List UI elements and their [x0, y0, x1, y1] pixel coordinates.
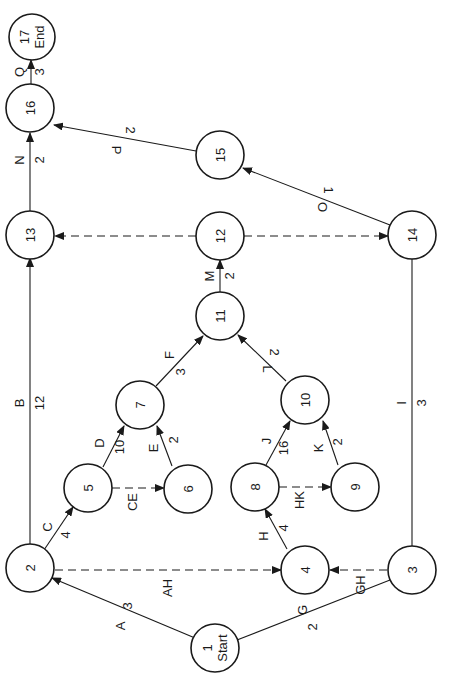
- label-G: G: [295, 605, 310, 615]
- label-H-duration: 4: [276, 524, 291, 531]
- node-14-label: 14: [405, 228, 420, 242]
- label-J: J: [259, 438, 274, 445]
- node-17-end: 17 End: [9, 14, 55, 60]
- node-12-label: 12: [213, 229, 228, 243]
- network-diagram: 1 Start 2 3 4 5 6 7 8 9 10 11 12 13 14 1…: [0, 0, 451, 684]
- node-16: 16: [6, 84, 54, 132]
- node-13-label: 13: [23, 228, 38, 242]
- node-17-label: 17: [17, 30, 32, 44]
- label-A-duration: 3: [120, 602, 135, 609]
- node-11: 11: [196, 292, 244, 340]
- label-M: M: [202, 271, 217, 282]
- node-15-label: 15: [213, 148, 228, 162]
- label-M-duration: 2: [222, 272, 237, 279]
- label-N: N: [12, 155, 27, 164]
- label-E: E: [146, 443, 161, 452]
- label-K-duration: 2: [330, 438, 345, 445]
- node-6: 6: [164, 465, 212, 513]
- label-AH: AH: [160, 579, 175, 597]
- node-4: 4: [281, 546, 329, 594]
- label-O: O: [315, 202, 330, 212]
- node-8-label: 8: [248, 483, 263, 490]
- label-F: F: [162, 351, 177, 359]
- label-D: D: [92, 438, 107, 447]
- label-P-duration: 2: [123, 126, 138, 133]
- node-5-label: 5: [81, 484, 96, 491]
- label-CE: CE: [125, 493, 140, 511]
- label-E-duration: 2: [166, 436, 181, 443]
- node-6-label: 6: [181, 485, 196, 492]
- label-A: A: [113, 621, 128, 630]
- label-C: C: [40, 522, 55, 531]
- label-B-duration: 12: [32, 396, 47, 410]
- node-1-start: 1 Start: [191, 624, 239, 672]
- node-3: 3: [388, 546, 436, 594]
- node-10: 10: [281, 376, 329, 424]
- node-3-label: 3: [405, 566, 420, 573]
- edge-O: [243, 168, 390, 225]
- edge-F: [156, 336, 203, 386]
- label-I-duration: 3: [414, 399, 429, 406]
- node-9: 9: [331, 463, 379, 511]
- label-Q-duration: 3: [32, 68, 47, 75]
- edge-L: [238, 335, 286, 381]
- node-10-label: 10: [298, 393, 313, 407]
- node-12: 12: [196, 212, 244, 260]
- node-11-label: 11: [213, 309, 228, 323]
- node-14: 14: [388, 211, 436, 259]
- node-17-sublabel: End: [32, 25, 47, 48]
- label-Q: Q: [12, 67, 27, 77]
- node-7-label: 7: [133, 401, 148, 408]
- label-G-duration: 2: [305, 623, 320, 630]
- label-K: K: [311, 443, 326, 452]
- node-2-label: 2: [23, 564, 38, 571]
- node-1-label: 1: [200, 644, 215, 651]
- label-D-duration: 10: [112, 440, 127, 454]
- label-GH: GH: [353, 575, 368, 595]
- node-9-label: 9: [348, 483, 363, 490]
- label-L: L: [260, 365, 275, 372]
- node-15: 15: [196, 131, 244, 179]
- node-8: 8: [231, 463, 279, 511]
- label-HK: HK: [292, 491, 307, 509]
- node-4-label: 4: [298, 566, 313, 573]
- label-H: H: [256, 531, 271, 540]
- label-I: I: [394, 401, 409, 405]
- node-5: 5: [64, 464, 112, 512]
- node-2: 2: [6, 544, 54, 592]
- label-B: B: [12, 399, 27, 408]
- label-N-duration: 2: [32, 156, 47, 163]
- label-P: P: [109, 146, 124, 155]
- node-13: 13: [6, 211, 54, 259]
- label-L-duration: 2: [267, 348, 282, 355]
- node-16-label: 16: [23, 101, 38, 115]
- label-O-duration: 1: [321, 186, 336, 193]
- node-7: 7: [116, 381, 164, 429]
- label-J-duration: 16: [276, 441, 291, 455]
- label-C-duration: 4: [58, 531, 73, 538]
- label-F-duration: 3: [173, 368, 188, 375]
- node-1-sublabel: Start: [215, 634, 230, 662]
